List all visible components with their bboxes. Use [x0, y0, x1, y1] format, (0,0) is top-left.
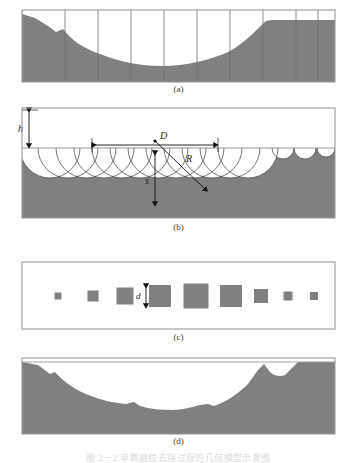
- grain-square: [117, 288, 134, 305]
- panel-c: d (c): [0, 258, 357, 352]
- panel-b-label: (b): [0, 222, 357, 232]
- grain-square: [184, 284, 209, 309]
- grain-square: [55, 293, 62, 300]
- label-d: d: [136, 291, 141, 301]
- panel-a: (a): [0, 0, 357, 96]
- figure-container: (a): [0, 0, 357, 463]
- panel-b: h D R s (b): [0, 100, 357, 252]
- grain-square: [149, 285, 171, 307]
- panel-d: (d): [0, 354, 357, 454]
- panel-c-label: (c): [0, 332, 357, 342]
- grain-square: [284, 292, 293, 301]
- label-D: D: [159, 130, 168, 141]
- panel-a-graphic: [0, 0, 357, 96]
- figure-caption: 图 2－2 单颗磨粒去除过程的几何模型示意图: [0, 452, 357, 463]
- grain-square: [310, 292, 318, 300]
- grain-square: [220, 285, 242, 307]
- panel-d-label: (d): [0, 436, 357, 446]
- panel-a-label: (a): [0, 84, 357, 94]
- grain-square: [88, 291, 99, 302]
- label-R: R: [185, 153, 192, 164]
- label-s: s: [145, 175, 149, 186]
- grain-square: [254, 289, 268, 303]
